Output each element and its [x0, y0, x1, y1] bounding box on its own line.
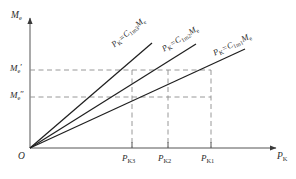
x-axis-label-sub: K: [283, 155, 288, 162]
x-tick-pk2-main: P: [158, 153, 164, 163]
plot-canvas: [0, 0, 296, 179]
x-tick-label-pk3: PK3: [122, 154, 135, 163]
x-tick-pk3-sub: K3: [128, 157, 136, 164]
x-axis-label: PK: [277, 152, 287, 162]
x-tick-label-pk1: PK1: [201, 154, 214, 163]
x-tick-label-pk2: PK2: [158, 154, 171, 163]
x-tick-pk3-main: P: [122, 153, 128, 163]
y-axis-label-sub: e: [19, 14, 22, 21]
x-tick-pk1-main: P: [201, 153, 207, 163]
origin-label: O: [18, 152, 25, 162]
y-axis-label-main: M: [11, 10, 19, 20]
line-ck-m1: [30, 49, 245, 148]
y-tick-me-double-prime-main: M: [10, 90, 18, 100]
line-ck-m3: [30, 43, 152, 148]
y-tick-label-me-double-prime: Me″: [10, 91, 24, 100]
x-tick-pk2-sub: K2: [164, 157, 172, 164]
y-tick-label-me-prime: Me′: [10, 64, 22, 73]
line-diagram-figure: Me PK O Me′ Me″ PK3 PK2 PK1 PK=C1m3Me PK…: [0, 0, 296, 179]
y-tick-me-double-prime-mark: ″: [20, 89, 24, 99]
y-axis-label: Me: [11, 11, 22, 21]
line-ck-m2: [30, 44, 196, 148]
y-tick-me-prime-main: M: [10, 63, 18, 73]
x-axis-label-main: P: [277, 151, 283, 161]
x-tick-pk1-sub: K1: [207, 157, 215, 164]
y-tick-me-prime-mark: ′: [20, 62, 22, 72]
